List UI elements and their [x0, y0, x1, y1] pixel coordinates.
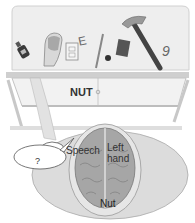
card-icon: [66, 43, 78, 60]
screen-frame-top: [6, 72, 189, 78]
left-hand-label: Left hand: [107, 142, 129, 164]
number-9: 9: [162, 43, 170, 59]
speech-bubble-text: ?: [35, 157, 40, 166]
figure-canvas: E 9: [0, 0, 195, 223]
nut-ball: [105, 55, 111, 61]
screen-label: NUT: [70, 87, 93, 98]
table-backdrop: [12, 6, 189, 70]
brain-nut-label: Nut: [100, 199, 116, 209]
left-hand-line1: Left: [107, 142, 124, 153]
left-hand-line2: hand: [107, 153, 129, 164]
split-brain-figure: E 9: [0, 0, 195, 223]
speech-label: Speech: [66, 146, 100, 156]
